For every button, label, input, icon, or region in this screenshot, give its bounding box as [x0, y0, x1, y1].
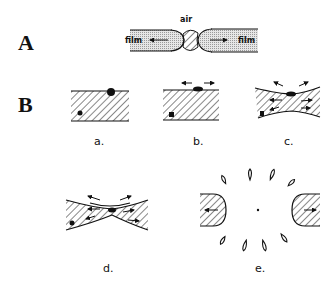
subfigure-c: c.: [255, 82, 320, 148]
label-air: air: [180, 15, 192, 24]
label-film-right: film: [238, 36, 255, 45]
air-hole: [183, 30, 198, 50]
sublabel-c: c.: [284, 135, 294, 148]
particle-bulk: [78, 111, 83, 116]
label-film-left: film: [125, 36, 142, 45]
sublabel-a: a.: [94, 135, 104, 148]
subfigure-b: b.: [163, 83, 219, 148]
panel-a: A air film film: [18, 15, 258, 55]
figure-canvas: A air film film B a.: [0, 0, 336, 289]
panel-label-b: B: [18, 92, 33, 117]
subfigure-a: a.: [71, 88, 129, 148]
subfigure-d: d.: [66, 196, 148, 275]
sublabel-d: d.: [103, 262, 113, 275]
panel-label-a: A: [18, 30, 34, 55]
sublabel-b: b.: [193, 135, 203, 148]
subfigure-e: e.: [200, 169, 320, 275]
sublabel-e: e.: [255, 262, 265, 275]
particle-surface: [107, 88, 115, 96]
